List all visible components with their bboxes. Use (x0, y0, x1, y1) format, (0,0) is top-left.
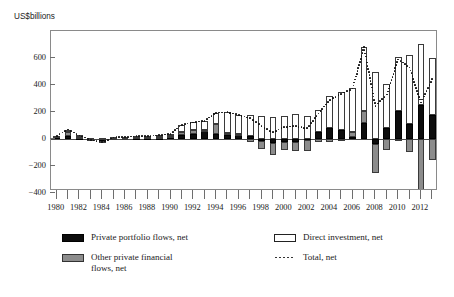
bar-group (304, 31, 311, 189)
bar-segment-private-portfolio (429, 115, 436, 139)
x-axis-tick-mark (215, 190, 216, 199)
total-line-dot (358, 64, 360, 66)
x-axis-tick-mark (352, 190, 353, 199)
bar-segment-other-private (167, 136, 174, 138)
bar-group (349, 31, 356, 189)
bar-segment-private-portfolio (395, 111, 402, 139)
x-axis-tick-mark (283, 190, 284, 199)
total-line-dot (412, 75, 414, 77)
x-axis-tick-mark (329, 190, 330, 199)
total-line-dot (325, 104, 327, 106)
x-axis-tick-label: 2012 (412, 203, 429, 212)
x-axis-tick-label: 1994 (207, 203, 224, 212)
x-axis-tick-label: 1996 (229, 203, 246, 212)
bar-segment-other-private (270, 143, 277, 154)
bar-group (122, 31, 129, 189)
chart-page: US$billions 6004002000−200−400 198019821… (0, 0, 454, 297)
total-line-dot (213, 113, 215, 115)
bar-group (235, 31, 242, 189)
x-axis-tick-mark (317, 190, 318, 199)
bar-segment-other-private (258, 141, 265, 149)
total-line-dot (415, 87, 417, 89)
total-line-dot (357, 70, 359, 72)
bar-group (372, 31, 379, 189)
total-line-dot (346, 90, 348, 92)
total-line-dot (70, 130, 72, 132)
total-line-dot (340, 93, 342, 95)
bar-segment-other-private (178, 132, 185, 135)
legend-label-total-net: Total, net (303, 252, 337, 263)
legend-label-private-portfolio: Private portfolio flows, net (91, 232, 188, 243)
y-axis-unit-label: US$billions (14, 12, 55, 21)
x-axis-tick-mark (340, 190, 341, 199)
total-line-dot (87, 138, 89, 140)
total-line-dot (406, 65, 408, 67)
x-axis-tick-mark (158, 190, 159, 199)
total-line-dot (153, 135, 155, 137)
total-line-dot (238, 114, 240, 116)
total-line-dot (312, 120, 314, 122)
bar-segment-other-private (65, 132, 72, 136)
x-axis-tick-mark (386, 190, 387, 199)
total-line-dot (390, 82, 392, 84)
bar-segment-other-private (326, 139, 333, 142)
total-line-dot (424, 93, 426, 95)
chart-legend: Private portfolio flows, netDirect inves… (62, 232, 442, 290)
x-axis-tick-mark (67, 190, 68, 199)
bar-group (281, 31, 288, 189)
bar-segment-other-private (395, 139, 402, 141)
y-axis-tick-mark (50, 111, 55, 112)
total-line-dot (397, 59, 399, 61)
bar-group (429, 31, 436, 189)
bar-group (224, 31, 231, 189)
total-line-dot (266, 128, 268, 130)
x-axis-tick-label: 2006 (343, 203, 360, 212)
legend-item-total-net: Total, net (274, 252, 337, 263)
x-axis-labels: 1980198219841986198819901992199419961998… (50, 203, 437, 217)
total-line-dot (59, 133, 61, 135)
total-line-dot (144, 135, 146, 137)
total-line-dot (298, 126, 300, 128)
y-axis-tick-label: 400 (6, 80, 46, 89)
total-line-dot (306, 127, 308, 129)
bar-group (110, 31, 117, 189)
bar-segment-private-portfolio (224, 135, 231, 139)
bar-segment-other-private (281, 142, 288, 149)
bar-group (144, 31, 151, 189)
total-line-dot (174, 129, 176, 131)
y-axis-tick-mark (50, 165, 55, 166)
total-line-dot (375, 105, 377, 107)
bar-segment-direct-investment (201, 121, 208, 130)
total-line-dot (93, 140, 95, 142)
x-axis-tick-mark (306, 190, 307, 199)
x-axis-tick-mark (249, 190, 250, 199)
total-line-dot (321, 108, 323, 110)
y-axis-tick-label: 600 (6, 53, 46, 62)
total-line-dot (215, 112, 217, 114)
total-line-dot (116, 136, 118, 138)
bar-segment-private-portfolio (178, 135, 185, 139)
bar-group (338, 31, 345, 189)
bar-group (247, 31, 254, 189)
bar-group (87, 31, 94, 189)
total-line-dot (368, 71, 370, 73)
bar-segment-other-private (372, 144, 379, 173)
bar-segment-other-private (224, 133, 231, 135)
total-line-dot (360, 58, 362, 60)
total-line-dot (431, 78, 433, 80)
x-axis-tick-label: 2000 (275, 203, 292, 212)
x-axis-tick-mark (420, 190, 421, 199)
bar-group (270, 31, 277, 189)
y-axis-tick-label: −400 (6, 188, 46, 197)
bar-segment-other-private (304, 140, 311, 151)
total-line-dot (278, 129, 280, 131)
total-line-dot (244, 116, 246, 118)
bar-segment-other-private (406, 139, 413, 152)
bar-segment-private-portfolio (201, 131, 208, 139)
bar-group (418, 31, 425, 189)
bar-segment-direct-investment (270, 117, 277, 139)
total-line-dot (349, 89, 351, 91)
x-axis-tick-mark (272, 190, 273, 199)
total-line-dot (332, 97, 334, 99)
x-axis-tick-label: 1988 (138, 203, 155, 212)
